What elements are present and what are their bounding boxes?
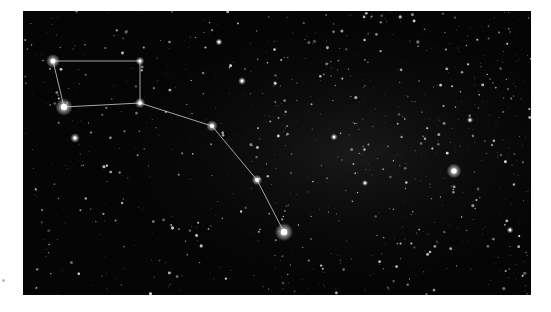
faint-star [516,164,517,165]
faint-star [318,182,319,183]
faint-star [143,148,145,150]
faint-star [82,161,83,162]
faint-star [407,284,409,286]
faint-star [118,35,119,36]
faint-star [253,275,254,276]
faint-star [427,237,428,238]
faint-star [370,275,371,276]
faint-star [487,109,488,110]
faint-star [339,260,340,261]
bright-star [451,168,456,173]
faint-star [162,219,165,222]
faint-star [431,147,433,149]
faint-star [150,65,151,66]
faint-star [57,94,59,96]
bright-star [218,41,221,44]
faint-star [451,185,453,187]
faint-star [399,15,402,18]
faint-star [287,57,288,58]
faint-star [70,261,73,264]
faint-star [513,153,515,155]
faint-star [330,75,331,76]
faint-star [472,135,475,138]
faint-star [62,270,63,271]
faint-star [466,45,468,47]
faint-star [440,196,441,197]
faint-star [315,33,316,34]
faint-star [426,126,427,127]
faint-star [185,241,186,242]
faint-star [302,279,303,280]
faint-star [413,20,416,23]
faint-star [352,200,354,202]
faint-star [307,177,308,178]
faint-star [278,117,280,119]
faint-star [325,14,327,16]
faint-star [505,219,508,222]
faint-star [217,24,218,25]
faint-star [385,115,386,116]
star-mizar [255,178,259,182]
faint-star [500,187,501,188]
faint-star [191,226,192,227]
faint-star [312,181,314,183]
faint-star [467,63,469,65]
faint-star [517,143,518,144]
faint-star [155,127,156,128]
faint-star [181,152,183,154]
faint-star [280,260,281,261]
faint-star [152,119,153,120]
faint-star [468,241,469,242]
faint-star [210,143,212,145]
faint-star [418,80,420,82]
faint-star [256,146,259,149]
faint-star [92,285,93,286]
faint-star [514,174,515,175]
faint-star [41,222,43,224]
faint-star [505,28,506,29]
faint-star [458,26,459,27]
faint-star [426,50,427,51]
faint-star [453,186,456,189]
faint-star [291,153,293,155]
faint-star [429,119,430,120]
faint-star [169,75,170,76]
faint-star [425,94,426,95]
faint-star [337,69,338,70]
faint-star [126,30,127,31]
faint-star [121,284,122,285]
faint-star [389,176,392,179]
faint-star [180,59,181,60]
faint-star [53,183,55,185]
faint-star [466,230,467,231]
faint-star [431,198,432,199]
faint-star [502,287,505,290]
faint-star [525,252,526,253]
faint-star [102,165,105,168]
faint-star [339,60,340,61]
faint-star [262,169,263,170]
faint-star [104,221,105,222]
faint-star [38,153,39,154]
faint-star [85,197,87,199]
milky-way-haze [23,11,531,295]
faint-star [326,40,327,41]
faint-star [189,23,190,24]
faint-star [474,85,475,86]
faint-star [313,40,316,43]
faint-star [463,242,464,243]
faint-star [229,278,230,279]
faint-star [458,48,459,49]
faint-star [503,140,504,141]
faint-star [477,188,480,191]
faint-star [427,233,428,234]
faint-star [336,288,337,289]
faint-star [505,270,507,272]
faint-star [144,98,145,99]
faint-star [481,83,484,86]
faint-star [200,244,203,247]
faint-star [392,266,393,267]
faint-star [152,232,153,233]
faint-star [503,21,504,22]
faint-star [121,52,124,55]
